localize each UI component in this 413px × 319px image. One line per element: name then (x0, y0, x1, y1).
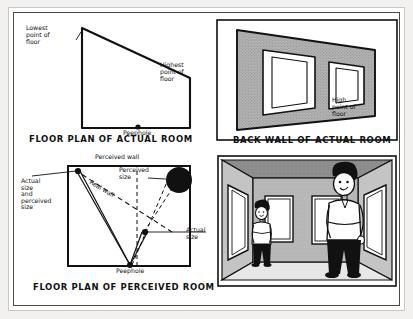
label-highest-point: Highest point of floor (160, 61, 184, 83)
ames-room-scene-drawing (215, 152, 399, 290)
small-person-shoe-left (252, 263, 260, 267)
label-actual-and-perceived-size: Actual size and perceived size (21, 178, 51, 211)
label-high-point-of-floor: High point of floor (332, 96, 356, 118)
caption-perceived-floor-plan: FLOOR PLAN OF PERCEIVED ROOM (33, 282, 215, 292)
large-person-eye-left (339, 181, 342, 184)
small-person-eye-left (258, 211, 260, 213)
perceived-floor-plan-drawing (20, 148, 210, 290)
caption-actual-floor-plan: FLOOR PLAN OF ACTUAL ROOM (29, 134, 193, 144)
small-person-eye-right (263, 211, 265, 213)
small-person-shoe-right (264, 263, 272, 267)
caption-back-wall: BACK WALL OF ACTUAL ROOM (233, 135, 391, 145)
panel-photo-illustration (215, 152, 399, 290)
large-person-eye-right (346, 181, 349, 184)
perceived-size-disc (166, 167, 192, 193)
small-person-head (256, 206, 268, 219)
large-person-shoe-right (347, 272, 361, 278)
large-person-shoe-left (325, 272, 339, 278)
panel-perceived-floor-plan: Perceived wall Real wall Perceived size … (20, 148, 210, 290)
panel-back-wall: High point of floor (215, 16, 399, 144)
label-actual-size: Actual size (186, 226, 205, 240)
back-wall-drawing (215, 16, 399, 144)
ames-room-figure: Lowest point of floor Highest point of f… (0, 0, 413, 319)
label-perceived-size: Perceived size (119, 166, 149, 180)
label-perceived-wall: Perceived wall (95, 153, 139, 160)
large-person-head (334, 173, 355, 196)
scene-window-side-right-inner (367, 190, 382, 255)
scene-window-side-left-inner (232, 190, 245, 255)
lowest-point-pointer (76, 32, 81, 40)
panel-actual-floor-plan: Lowest point of floor Highest point of f… (20, 16, 206, 144)
label-lowest-point: Lowest point of floor (26, 24, 50, 46)
window-inner-left (272, 57, 307, 108)
label-perceived-peephole: Peephole (116, 267, 144, 274)
